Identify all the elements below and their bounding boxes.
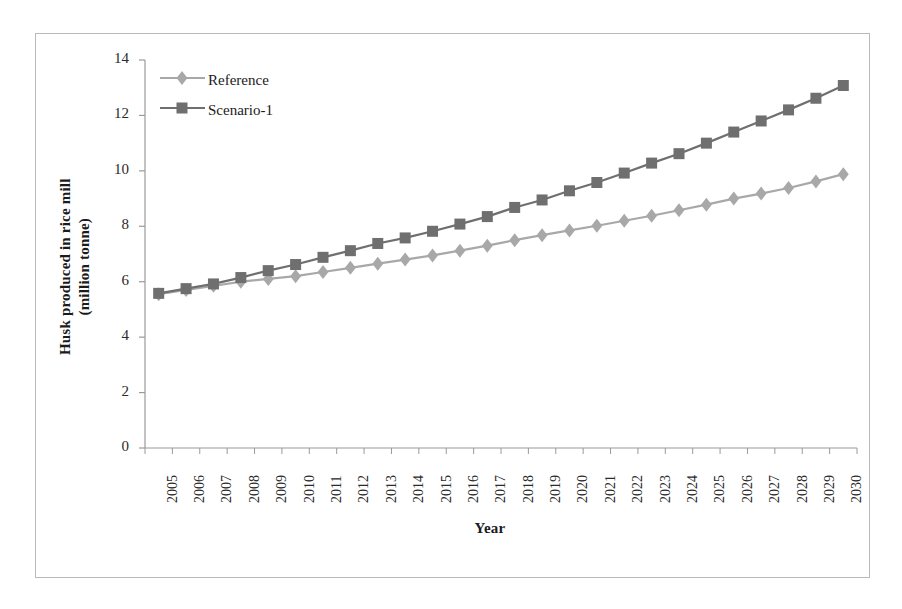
legend-marker-diamond [177, 71, 188, 85]
data-point-marker [454, 219, 465, 230]
data-point-marker [783, 181, 794, 195]
data-point-marker [838, 167, 849, 181]
data-point-marker [674, 203, 685, 217]
data-point-marker [400, 253, 411, 267]
data-point-marker [783, 104, 794, 115]
data-point-marker [701, 198, 712, 212]
data-point-marker [674, 148, 685, 159]
data-point-marker [701, 138, 712, 149]
data-point-marker [345, 245, 356, 256]
data-point-marker [564, 185, 575, 196]
data-point-marker [235, 272, 246, 283]
data-point-marker [208, 278, 219, 289]
series-line [159, 174, 844, 294]
data-point-marker [810, 93, 821, 104]
data-point-marker [345, 261, 356, 275]
data-point-marker [756, 187, 767, 201]
data-point-marker [838, 80, 849, 91]
data-point-marker [591, 177, 602, 188]
data-point-marker [372, 257, 383, 271]
data-point-marker [646, 158, 657, 169]
data-point-marker [537, 194, 548, 205]
x-axis-ticks [145, 448, 857, 454]
data-point-marker [427, 226, 438, 237]
data-point-marker [318, 252, 329, 263]
data-series-layer [153, 80, 849, 301]
data-point-marker [756, 115, 767, 126]
data-point-marker [619, 214, 630, 228]
data-point-marker [318, 265, 329, 279]
data-point-marker [509, 202, 520, 213]
legend-marks [160, 71, 205, 114]
data-point-marker [290, 259, 301, 270]
data-point-marker [591, 219, 602, 233]
data-point-marker [263, 265, 274, 276]
figure-root: Husk produced in rice mill (million tonn… [0, 0, 902, 609]
data-point-marker [728, 192, 739, 206]
data-point-marker [482, 239, 493, 253]
data-point-marker [400, 232, 411, 243]
data-point-marker [509, 233, 520, 247]
series-scenario-1 [153, 80, 849, 299]
data-point-marker [290, 269, 301, 283]
series-line [159, 85, 844, 293]
data-point-marker [454, 244, 465, 258]
data-point-marker [619, 168, 630, 179]
data-point-marker [482, 211, 493, 222]
data-point-marker [537, 228, 548, 242]
series-reference [153, 167, 849, 301]
axis-lines [145, 60, 857, 448]
data-point-marker [372, 238, 383, 249]
data-point-marker [564, 223, 575, 237]
data-point-marker [810, 174, 821, 188]
data-point-marker [427, 248, 438, 262]
data-point-marker [153, 288, 164, 299]
legend-marker-square [177, 103, 188, 114]
data-point-marker [646, 209, 657, 223]
data-point-marker [728, 127, 739, 138]
plot-canvas [0, 0, 902, 609]
data-point-marker [181, 283, 192, 294]
y-axis-ticks [139, 60, 145, 448]
